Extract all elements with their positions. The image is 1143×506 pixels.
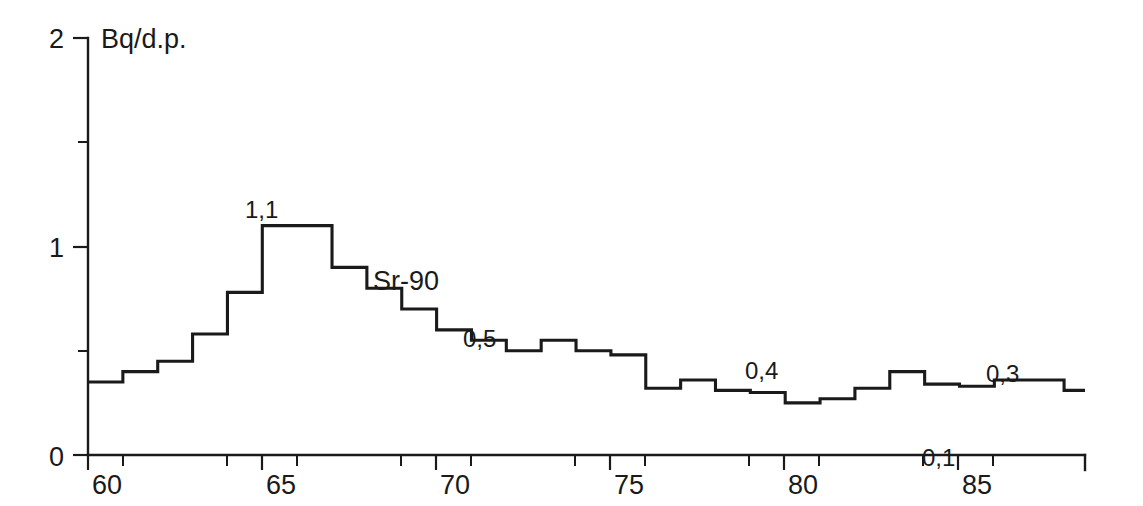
data-label-1971: 0,5 bbox=[463, 325, 496, 352]
series-line-sr-90 bbox=[88, 226, 1085, 403]
series-name-label: Sr-90 bbox=[373, 266, 439, 296]
y-axis-group: 2 1 0 Bq/d.p. bbox=[49, 24, 187, 472]
x-tick-label-80: 80 bbox=[788, 470, 818, 500]
data-series-group bbox=[88, 226, 1085, 403]
data-label-1979: 0,4 bbox=[745, 357, 778, 384]
y-tick-label-0: 0 bbox=[49, 442, 64, 472]
data-label-peak: 1,1 bbox=[245, 196, 278, 223]
y-axis-title: Bq/d.p. bbox=[101, 24, 187, 54]
y-tick-label-1: 1 bbox=[49, 233, 64, 263]
x-tick-label-70: 70 bbox=[440, 470, 470, 500]
data-label-1985: 0,1 bbox=[922, 444, 955, 471]
annotation-group: Sr-90 1,1 0,5 0,4 0,1 0,3 bbox=[245, 196, 1019, 471]
strontium-90-step-chart: 2 1 0 Bq/d.p. bbox=[0, 0, 1143, 506]
x-tick-label-65: 65 bbox=[266, 470, 296, 500]
data-label-1987: 0,3 bbox=[986, 360, 1019, 387]
x-tick-label-85: 85 bbox=[962, 470, 992, 500]
y-tick-label-2: 2 bbox=[49, 24, 64, 54]
chart-figure: 2 1 0 Bq/d.p. bbox=[0, 0, 1143, 506]
x-tick-label-60: 60 bbox=[92, 470, 122, 500]
x-tick-label-75: 75 bbox=[614, 470, 644, 500]
